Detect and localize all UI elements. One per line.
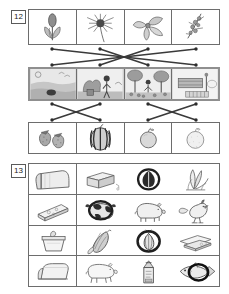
- worksheet-page: 12: [0, 0, 229, 294]
- cell-yogurt-cup[interactable]: [29, 226, 77, 256]
- circled-onion-icon: [125, 226, 172, 256]
- exercise-12-fruits-row: [28, 122, 220, 154]
- cell-strawberries[interactable]: [29, 123, 77, 153]
- rooster-icon: [172, 195, 219, 225]
- cow-icon: [77, 195, 124, 225]
- cell-circled-item-1[interactable]: [125, 164, 172, 194]
- exercise-13-grid: [28, 163, 220, 287]
- cell-milk-carton[interactable]: [125, 256, 172, 286]
- cell-fish[interactable]: [172, 256, 219, 286]
- cell-blossom[interactable]: [125, 10, 173, 44]
- apple-icon: [125, 123, 172, 153]
- cell-garden-scene[interactable]: [77, 69, 124, 99]
- cell-apple[interactable]: [125, 123, 173, 153]
- bread-roll-icon: [29, 256, 76, 286]
- exercise-12-flowers-row: [28, 9, 220, 45]
- exercise-13: 13: [0, 158, 229, 290]
- yogurt-cup-icon: [29, 226, 76, 256]
- bread-loaf-icon: [29, 164, 76, 194]
- cell-cheese-wedge[interactable]: [29, 195, 77, 225]
- cheese-slices-icon: [172, 226, 219, 256]
- fish-icon: [172, 256, 219, 286]
- cheese-wedge-icon: [29, 195, 76, 225]
- table-row: [29, 256, 219, 286]
- garden-scene-icon: [77, 69, 123, 99]
- cell-beach-scene[interactable]: [30, 69, 77, 99]
- exercise-12: 12: [0, 5, 229, 145]
- cell-tulip[interactable]: [29, 10, 77, 44]
- orange-icon: [172, 123, 219, 153]
- cell-pig[interactable]: [125, 195, 172, 225]
- milk-carton-icon: [125, 256, 172, 286]
- cell-harvest-scene[interactable]: [125, 69, 172, 99]
- cell-butter-block[interactable]: [77, 164, 124, 194]
- cell-dandelion[interactable]: [77, 10, 125, 44]
- dandelion-flower-icon: [77, 10, 124, 44]
- circled-item-icon: [125, 164, 172, 194]
- table-row: [29, 164, 219, 195]
- exercise-number-13: 13: [11, 164, 26, 178]
- cell-cow[interactable]: [77, 195, 124, 225]
- exercise-number-12: 12: [11, 10, 26, 24]
- cell-rooster[interactable]: [172, 195, 219, 225]
- cell-bread-loaf[interactable]: [29, 164, 77, 194]
- sprig-berries-icon: [172, 10, 219, 44]
- butter-block-icon: [77, 164, 124, 194]
- cell-circled-item-2[interactable]: [125, 226, 172, 256]
- cell-leek-plant[interactable]: [172, 164, 219, 194]
- pig-outline-icon: [77, 256, 124, 286]
- cell-watermelon[interactable]: [77, 123, 125, 153]
- winter-scene-icon: [172, 69, 218, 99]
- table-row: [29, 195, 219, 226]
- exercise-12-season-row: [28, 67, 220, 101]
- cell-corn-cob[interactable]: [77, 226, 124, 256]
- cell-cheese-slices[interactable]: [172, 226, 219, 256]
- cell-pig-outline[interactable]: [77, 256, 124, 286]
- watermelon-icon: [77, 123, 124, 153]
- table-row: [29, 226, 219, 257]
- beach-scene-icon: [30, 69, 76, 99]
- harvest-scene-icon: [125, 69, 171, 99]
- cell-winter-scene[interactable]: [172, 69, 218, 99]
- strawberries-icon: [29, 123, 76, 153]
- cell-bread-roll[interactable]: [29, 256, 77, 286]
- leek-plant-icon: [172, 164, 219, 194]
- corn-cob-icon: [77, 226, 124, 256]
- leafy-blossom-icon: [125, 10, 172, 44]
- cell-orange[interactable]: [172, 123, 219, 153]
- tulip-bud-icon: [29, 10, 76, 44]
- pig-icon: [125, 195, 172, 225]
- cell-berry-sprig[interactable]: [172, 10, 219, 44]
